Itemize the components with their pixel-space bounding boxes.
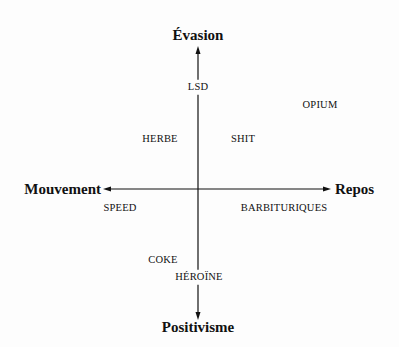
item-heroine: HÉROÏNE	[174, 270, 223, 285]
item-lsd: LSD	[187, 80, 209, 95]
item-speed: SPEED	[103, 203, 136, 214]
axis-label-top: Évasion	[173, 28, 224, 43]
axis-label-left: Mouvement	[24, 182, 101, 197]
item-herbe: HERBE	[142, 134, 177, 145]
item-barbituriques: BARBITURIQUES	[241, 203, 328, 214]
axis-label-right: Repos	[335, 182, 374, 197]
item-coke: COKE	[148, 255, 177, 266]
axes-svg	[0, 0, 399, 347]
arrow-up-icon	[196, 46, 201, 54]
axis-label-bottom: Positivisme	[162, 320, 235, 335]
diagram-canvas: Évasion Positivisme Mouvement Repos LSD …	[0, 0, 399, 347]
arrow-right-icon	[323, 187, 331, 192]
item-shit: SHIT	[231, 134, 255, 145]
arrow-left-icon	[103, 187, 111, 192]
item-opium: OPIUM	[303, 100, 338, 111]
